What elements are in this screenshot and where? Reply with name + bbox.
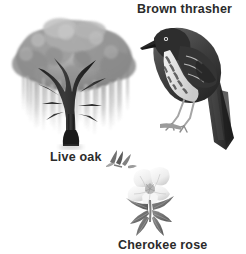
oak-ground-shadow [59,145,83,150]
cherokee-rose-flower-illustration [104,150,196,240]
label-cherokee-rose: Cherokee rose [118,239,207,252]
brown-thrasher-bird-illustration [140,20,244,158]
bird-perch [160,123,182,130]
live-oak-tree-illustration [8,12,140,150]
oak-trunk-base [63,130,79,146]
rose-bud-sprig [106,150,137,168]
label-live-oak: Live oak [50,151,102,164]
rose-stem [150,200,151,222]
illustration-plate: Brown thrasher Live oak Cherokee rose [0,0,246,254]
label-brown-thrasher: Brown thrasher [137,3,232,16]
bird-legs [172,100,194,126]
